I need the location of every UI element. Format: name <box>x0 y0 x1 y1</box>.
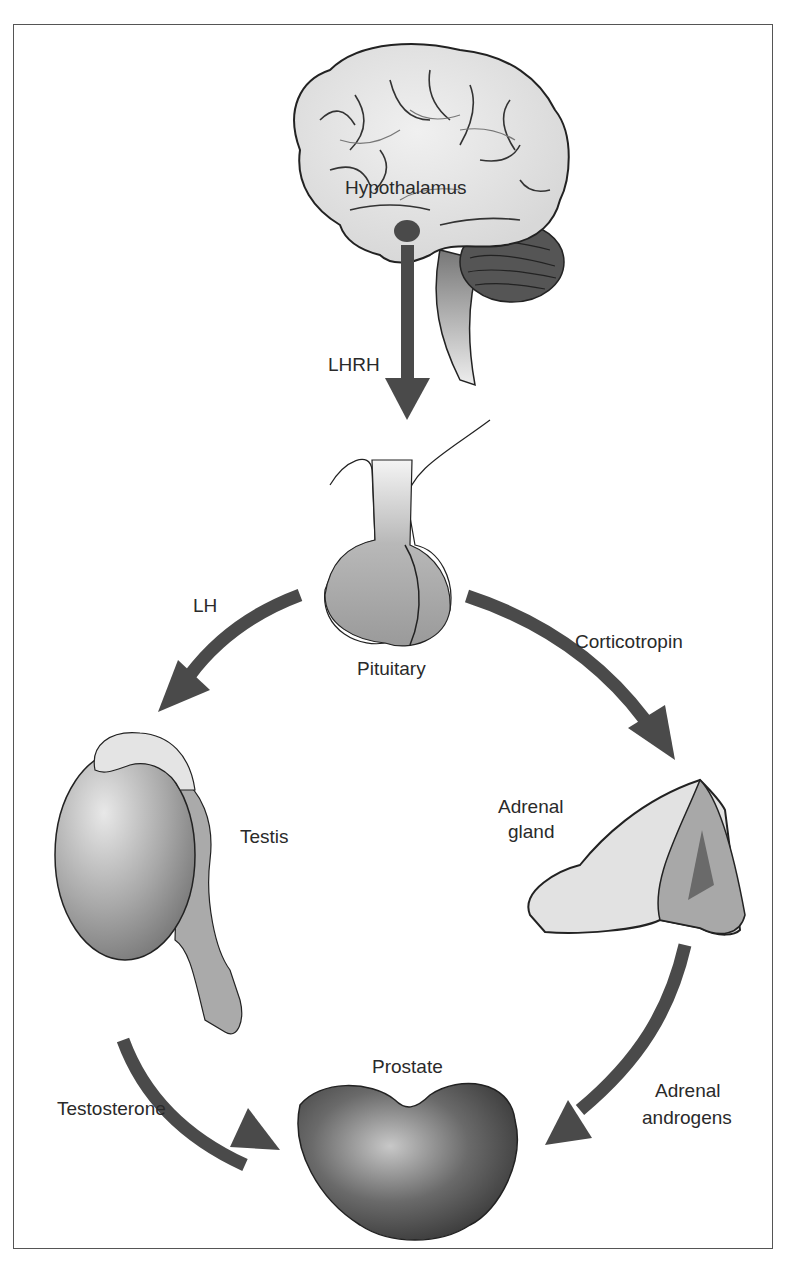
label-pituitary: Pituitary <box>357 658 426 679</box>
label-adrenal-line2: gland <box>508 821 555 842</box>
label-adrenal-androgens-line1: Adrenal <box>655 1080 721 1101</box>
arrow-lh <box>158 595 300 712</box>
arrow-lhrh <box>385 245 430 420</box>
hormone-pathway-diagram: Hypothalamus LHRH Pituitary LH Corticotr… <box>0 0 800 1284</box>
label-testosterone: Testosterone <box>57 1098 166 1119</box>
label-hypothalamus: Hypothalamus <box>345 177 466 198</box>
label-corticotropin: Corticotropin <box>575 631 683 652</box>
hypothalamus-dot <box>394 220 420 242</box>
prostate-illustration <box>298 1084 517 1240</box>
arrow-corticotropin <box>467 596 675 760</box>
label-lh: LH <box>193 595 217 616</box>
testis-illustration <box>55 733 242 1034</box>
label-prostate: Prostate <box>372 1056 443 1077</box>
pituitary-illustration <box>325 420 490 646</box>
label-testis: Testis <box>240 826 289 847</box>
label-lhrh: LHRH <box>328 354 380 375</box>
brain-illustration <box>294 44 569 385</box>
label-adrenal-androgens-line2: androgens <box>642 1107 732 1128</box>
label-adrenal-line1: Adrenal <box>498 796 564 817</box>
